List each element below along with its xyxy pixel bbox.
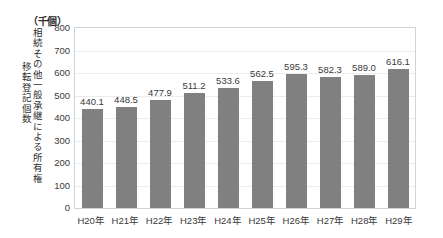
bar[interactable] — [286, 74, 307, 208]
bar-value-label: 448.5 — [114, 95, 138, 105]
bar[interactable] — [150, 100, 171, 208]
x-axis-tick-label: H24年 — [211, 213, 245, 227]
x-axis-tick-label: H29年 — [382, 213, 416, 227]
bars-layer: 440.1448.5477.9511.2533.6562.5595.3582.3… — [75, 28, 415, 208]
bar[interactable] — [116, 107, 137, 208]
x-axis-ticks: H20年H21年H22年H23年H24年H25年H26年H27年H28年H29年 — [74, 213, 416, 227]
x-axis-tick-label: H20年 — [74, 213, 108, 227]
bar[interactable] — [252, 81, 273, 208]
x-axis-tick-label: H28年 — [348, 213, 382, 227]
bar[interactable] — [388, 69, 409, 208]
bar-slot: 448.5 — [109, 28, 143, 208]
bar-slot: 595.3 — [279, 28, 313, 208]
bar-slot: 440.1 — [75, 28, 109, 208]
bar-slot: 511.2 — [177, 28, 211, 208]
y-axis-ticks: 8007006005004003002001000 — [44, 24, 70, 210]
bar[interactable] — [82, 109, 103, 208]
y-axis-title-inner: 相続その他一般承継による所有権 — [31, 28, 42, 184]
bar-value-label: 616.1 — [386, 57, 410, 67]
bar-value-label: 533.6 — [216, 76, 240, 86]
y-axis-tick-label: 800 — [54, 23, 70, 33]
y-axis-tick-label: 400 — [54, 113, 70, 123]
bar-value-label: 595.3 — [284, 62, 308, 72]
y-axis-tick-label: 100 — [54, 181, 70, 191]
bar-value-label: 440.1 — [80, 97, 104, 107]
y-axis-tick-label: 0 — [65, 203, 70, 213]
bar[interactable] — [184, 93, 205, 208]
bar-slot: 582.3 — [313, 28, 347, 208]
bar[interactable] — [320, 77, 341, 208]
x-axis-tick-label: H26年 — [279, 213, 313, 227]
bar-slot: 533.6 — [211, 28, 245, 208]
y-axis-tick-label: 500 — [54, 91, 70, 101]
bar-value-label: 511.2 — [182, 81, 205, 91]
bar-slot: 616.1 — [381, 28, 415, 208]
x-axis-tick-label: H25年 — [245, 213, 279, 227]
x-axis-tick-label: H21年 — [108, 213, 142, 227]
plot-area: 440.1448.5477.9511.2533.6562.5595.3582.3… — [74, 27, 416, 209]
bar-value-label: 589.0 — [352, 63, 376, 73]
bar-value-label: 562.5 — [250, 69, 274, 79]
bar-slot: 589.0 — [347, 28, 381, 208]
bar[interactable] — [354, 75, 375, 208]
bar[interactable] — [218, 88, 239, 208]
y-axis-title-outer: 移転登記個数 — [20, 62, 31, 124]
bar-chart: （千個） 移転登記個数 相続その他一般承継による所有権 800700600500… — [0, 0, 443, 238]
y-axis-tick-label: 200 — [54, 158, 70, 168]
bar-value-label: 477.9 — [148, 88, 172, 98]
x-axis-tick-label: H23年 — [177, 213, 211, 227]
bar-value-label: 582.3 — [318, 65, 342, 75]
y-axis-tick-label: 700 — [54, 46, 70, 56]
x-axis-tick-label: H27年 — [313, 213, 347, 227]
y-axis-tick-label: 300 — [54, 136, 70, 146]
y-axis-tick-label: 600 — [54, 68, 70, 78]
bar-slot: 477.9 — [143, 28, 177, 208]
bar-slot: 562.5 — [245, 28, 279, 208]
x-axis-tick-label: H22年 — [142, 213, 176, 227]
